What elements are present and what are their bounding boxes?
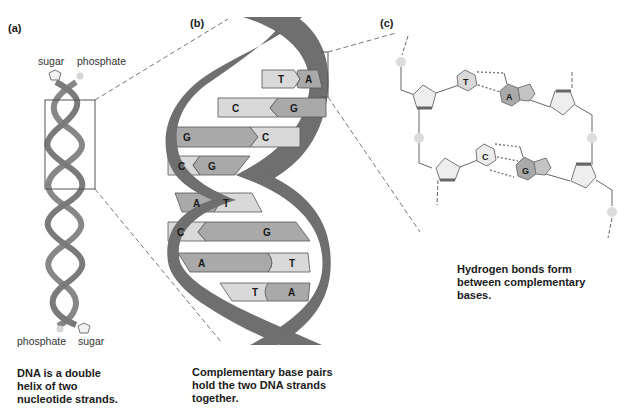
base-b8-left: T (252, 287, 258, 298)
base-b7-right: T (289, 258, 295, 269)
base-b1-left: T (278, 74, 284, 85)
base-b6-left: C (177, 227, 184, 238)
sugar-icon-top (49, 70, 61, 80)
base-b5-right: T (223, 198, 229, 209)
base-b4-right: G (208, 161, 216, 172)
base-c2-right: G (522, 166, 529, 176)
base-b8-right: A (288, 287, 295, 298)
base-b5-left: A (193, 198, 200, 209)
base-b2-right: G (290, 103, 298, 114)
phosphate-icon-bottom (57, 326, 64, 333)
base-b4-left: C (178, 161, 185, 172)
helix-b: T A C G G C C G A T C G A T T A (166, 17, 331, 345)
dna-diagram: T A C G G C C G A T C G A T T A (0, 0, 631, 416)
phosphate-icon-top (77, 73, 84, 80)
hydrogen-bond-detail (396, 36, 617, 238)
base-b6-right: G (263, 227, 271, 238)
base-b2-left: C (232, 103, 239, 114)
helix-a (47, 82, 82, 326)
base-b1-right: A (305, 74, 312, 85)
base-b3-left: G (183, 132, 191, 143)
base-c2-left: C (482, 152, 489, 162)
base-c1-left: T (463, 77, 469, 87)
sugar-icon-bottom (78, 323, 90, 333)
base-b7-left: A (198, 258, 205, 269)
base-c1-right: A (506, 92, 513, 102)
base-b3-right: C (262, 132, 269, 143)
